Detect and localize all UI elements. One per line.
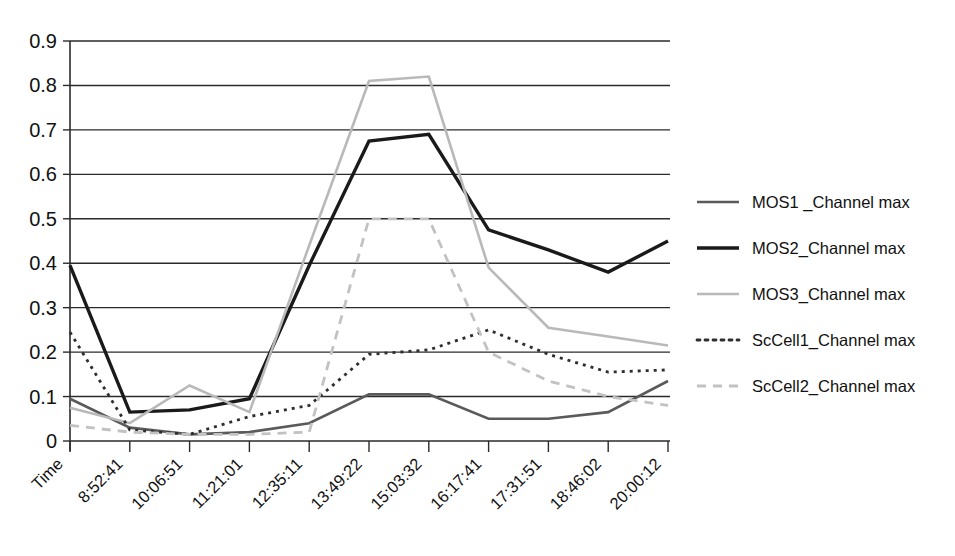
x-tick-label: 12:35:11 <box>248 454 305 511</box>
y-tick-label: 0.8 <box>29 74 57 96</box>
x-tick-label: 15:03:32 <box>367 454 425 512</box>
x-tick-label: 16:17:41 <box>427 454 485 512</box>
y-tick-label: 0.2 <box>29 341 57 363</box>
legend-label-5: ScCell2_Channel max <box>752 377 916 396</box>
y-tick-label: 0.6 <box>29 163 57 185</box>
y-tick-labels: 0.90.80.70.60.50.40.30.20.10 <box>29 30 57 452</box>
x-tick-label: 8:52:41 <box>74 454 126 506</box>
series-line-3 <box>70 77 668 424</box>
x-tick-label: 20:00:12 <box>606 454 664 512</box>
legend-label-1: MOS1 _Channel max <box>752 193 910 212</box>
legend-label-4: ScCell1_Channel max <box>752 331 916 350</box>
x-tick-label: 11:21:01 <box>188 454 245 511</box>
x-tick-label: 13:49:22 <box>307 454 365 512</box>
x-tick-label: Time <box>28 454 66 492</box>
y-tick-label: 0.4 <box>29 252 57 274</box>
y-tick-label: 0.9 <box>29 30 57 52</box>
chart-canvas: 0.90.80.70.60.50.40.30.20.10 Time8:52:41… <box>0 0 955 556</box>
series-line-2 <box>70 134 668 412</box>
x-tick-label: 18:46:02 <box>546 454 604 512</box>
y-tick-label: 0.5 <box>29 208 57 230</box>
x-tick-marks <box>70 441 668 452</box>
x-tick-label: 10:06:51 <box>128 454 186 512</box>
series-line-5 <box>70 219 668 435</box>
line-chart: 0.90.80.70.60.50.40.30.20.10 Time8:52:41… <box>0 0 955 556</box>
gridlines <box>70 41 670 441</box>
x-tick-labels: Time8:52:4110:06:5111:21:0112:35:1113:49… <box>28 454 664 512</box>
y-tick-label: 0.3 <box>29 297 57 319</box>
y-tick-label: 0.7 <box>29 119 57 141</box>
series-line-4 <box>70 330 668 434</box>
series-line-1 <box>70 381 668 434</box>
x-tick-label: 17:31:51 <box>486 454 544 512</box>
y-axis <box>63 41 70 451</box>
legend-label-3: MOS3_Channel max <box>752 285 906 304</box>
legend-label-2: MOS2_Channel max <box>752 239 906 258</box>
y-tick-label: 0 <box>46 430 57 452</box>
chart-legend: MOS1 _Channel maxMOS2_Channel maxMOS3_Ch… <box>697 193 916 396</box>
y-tick-label: 0.1 <box>29 386 57 408</box>
